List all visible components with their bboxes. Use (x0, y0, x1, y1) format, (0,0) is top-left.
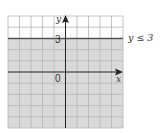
y-axis-label: y (55, 14, 62, 24)
x-axis-label: x (116, 74, 121, 84)
boundary-value-label: 3 (55, 34, 61, 45)
inequality-label: y ≤ 3 (127, 32, 153, 43)
origin-label: 0 (55, 73, 61, 84)
inequality-graph: y x 3 0 y ≤ 3 (0, 0, 161, 133)
